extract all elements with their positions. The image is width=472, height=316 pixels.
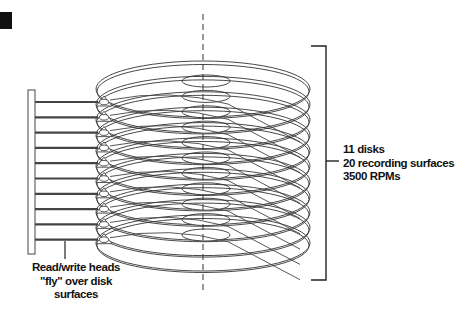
- read-write-head-icon: [100, 130, 109, 136]
- read-write-head-icon: [100, 191, 109, 197]
- stack-bracket: [311, 46, 326, 280]
- read-write-head-icon: [100, 206, 109, 212]
- actuator-bar: [28, 90, 35, 254]
- read-write-head-icon: [100, 99, 109, 105]
- read-write-head-icon: [100, 237, 109, 243]
- read-write-head-icon: [100, 222, 109, 228]
- read-write-head-icon: [100, 145, 109, 151]
- read-write-head-icon: [100, 160, 109, 166]
- heads-caption-line-2: "fly" over disk: [20, 275, 132, 289]
- read-write-head-icon: [100, 176, 109, 182]
- actuator-arms: [35, 95, 300, 280]
- heads-caption: Read/write heads "fly" over disk surface…: [20, 261, 132, 302]
- disk-specs-label: 11 disks 20 recording surfaces 3500 RPMs: [343, 143, 454, 184]
- spec-rpm: 3500 RPMs: [343, 170, 454, 184]
- read-write-arm: [35, 95, 300, 142]
- heads-caption-line-3: surfaces: [20, 288, 132, 302]
- spec-recording-surfaces: 20 recording surfaces: [343, 157, 454, 171]
- spec-disk-count: 11 disks: [343, 143, 454, 157]
- read-write-arm: [35, 217, 300, 264]
- heads-caption-line-1: Read/write heads: [20, 261, 132, 275]
- read-write-head-icon: [100, 115, 109, 121]
